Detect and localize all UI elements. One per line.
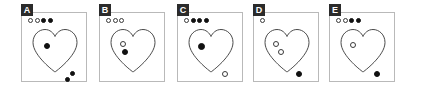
heart-area (330, 13, 396, 83)
header-dot-row (106, 18, 124, 23)
panel-b: B (96, 0, 168, 94)
heart-icon (262, 26, 312, 76)
panel-frame-e (329, 12, 395, 82)
heart-area (100, 13, 166, 83)
marker-filled-1 (122, 49, 128, 55)
panel-d: D (250, 0, 322, 94)
header-dot-row (28, 18, 53, 23)
panel-frame-d (253, 12, 319, 82)
header-dot-open-1 (343, 18, 348, 23)
multi-panel-figure: ABCDE (0, 0, 421, 94)
panel-label-e: E (329, 4, 341, 16)
marker-open-0 (273, 41, 279, 47)
heart-icon (186, 26, 236, 76)
header-dot-open-2 (119, 18, 124, 23)
panel-label-b: B (99, 4, 111, 16)
header-dot-open-0 (336, 18, 341, 23)
header-dot-row (184, 18, 209, 23)
header-dot-filled-3 (48, 18, 53, 23)
header-dot-open-0 (106, 18, 111, 23)
panel-label-c: C (177, 4, 189, 16)
heart-area (22, 13, 88, 83)
marker-open-0 (350, 42, 356, 48)
header-dot-filled-3 (204, 18, 209, 23)
panel-label-a: A (21, 4, 33, 16)
marker-filled-2 (296, 71, 302, 77)
marker-filled-0 (198, 43, 205, 50)
marker-filled-1 (70, 71, 75, 76)
heart-icon (108, 26, 158, 76)
marker-filled-1 (374, 71, 380, 77)
panel-e: E (326, 0, 398, 94)
heart-area (178, 13, 244, 83)
header-dot-filled-3 (356, 18, 361, 23)
panel-frame-b (99, 12, 165, 82)
header-dot-open-0 (28, 18, 33, 23)
marker-filled-0 (44, 43, 50, 49)
marker-open-0 (120, 41, 126, 47)
header-dot-open-0 (184, 18, 189, 23)
panel-frame-a (21, 12, 87, 82)
panel-label-d: D (253, 4, 265, 16)
header-dot-open-1 (35, 18, 40, 23)
heart-area (254, 13, 320, 83)
panel-frame-c (177, 12, 243, 82)
header-dot-filled-2 (41, 18, 46, 23)
marker-open-1 (222, 71, 228, 77)
heart-icon (338, 26, 388, 76)
header-dot-open-0 (260, 18, 265, 23)
marker-open-1 (278, 49, 284, 55)
heart-icon (30, 26, 80, 76)
header-dot-row (260, 18, 265, 23)
header-dot-filled-2 (349, 18, 354, 23)
marker-filled-2 (65, 77, 70, 82)
panel-a: A (18, 0, 90, 94)
panel-c: C (174, 0, 246, 94)
header-dot-open-1 (113, 18, 118, 23)
header-dot-row (336, 18, 361, 23)
header-dot-filled-1 (191, 18, 196, 23)
header-dot-filled-2 (197, 18, 202, 23)
